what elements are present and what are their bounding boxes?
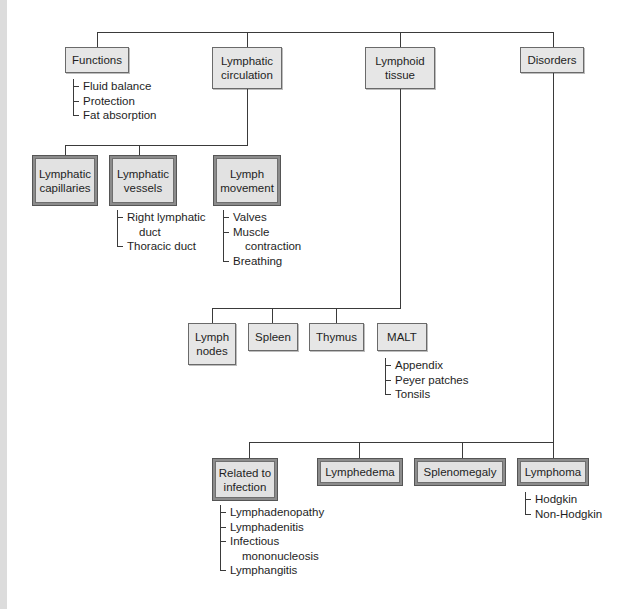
connector-to-vessels — [139, 145, 140, 155]
node-label-line1: Related to — [219, 466, 271, 480]
node-label: Splenomegaly — [424, 465, 497, 479]
node-label-line1: Lymph — [195, 330, 229, 344]
node-lymphatic-capillaries: Lymphatic capillaries — [32, 155, 98, 206]
node-functions: Functions — [65, 47, 129, 73]
infection-list: Lymphadenopathy Lymphadenitis Infectious… — [220, 505, 324, 578]
connector-to-lymphoid — [400, 32, 401, 47]
list-item: Hodgkin — [525, 492, 602, 507]
connector-top-horizontal — [97, 32, 554, 33]
node-label-line2: circulation — [221, 68, 273, 82]
node-lymph-nodes: Lymph nodes — [188, 323, 236, 365]
movement-list: Valves Muscle contraction Breathing — [223, 210, 301, 268]
node-label-line2: capillaries — [39, 181, 90, 195]
node-spleen: Spleen — [248, 323, 298, 351]
connector-to-lymphedema — [359, 442, 360, 458]
list-item: Non-Hodgkin — [525, 507, 602, 522]
node-label-line1: Lymphatic — [39, 167, 91, 181]
node-label: Lymphoma — [525, 465, 581, 479]
node-label-line1: Lymphatic — [117, 167, 169, 181]
node-malt: MALT — [377, 323, 427, 351]
node-label-line2: nodes — [196, 344, 227, 358]
list-item: Infectious — [220, 534, 324, 549]
connector-circulation-down — [247, 89, 248, 145]
connector-to-functions — [97, 32, 98, 47]
list-item: Appendix — [385, 358, 469, 373]
list-item: Tonsils — [385, 387, 469, 402]
vessels-list: Right lymphatic duct Thoracic duct — [117, 210, 206, 254]
node-disorders-label: Disorders — [527, 53, 576, 67]
list-item: Thoracic duct — [117, 239, 206, 254]
node-label-line1: Lymph — [230, 167, 264, 181]
connector-to-lymph-nodes — [212, 308, 213, 323]
functions-list: Fluid balance Protection Fat absorption — [73, 79, 157, 123]
connector-to-disorders — [553, 32, 554, 47]
node-lymphoid-tissue: Lymphoid tissue — [365, 47, 435, 89]
list-item: Breathing — [223, 254, 301, 269]
list-item: Muscle — [223, 225, 301, 240]
left-edge-strip — [0, 0, 7, 609]
connector-to-circulation — [247, 32, 248, 47]
connector-to-spleen — [272, 308, 273, 323]
malt-list: Appendix Peyer patches Tonsils — [385, 358, 469, 402]
node-label-line2: vessels — [124, 181, 162, 195]
list-item: Right lymphatic — [117, 210, 206, 225]
node-label-line2: infection — [224, 480, 267, 494]
connector-to-capillaries — [65, 145, 66, 155]
node-functions-label: Functions — [72, 53, 122, 67]
list-item: Lymphadenitis — [220, 520, 324, 535]
node-lymph-movement: Lymph movement — [213, 155, 281, 206]
lymphoma-list: Hodgkin Non-Hodgkin — [525, 492, 602, 521]
connector-to-infection — [249, 442, 250, 458]
list-item: Lymphadenopathy — [220, 505, 324, 520]
node-disorders: Disorders — [520, 47, 584, 73]
list-item: Fat absorption — [73, 108, 157, 123]
connector-lymphoid-down — [400, 89, 401, 308]
connector-circulation-horizontal — [65, 145, 248, 146]
connector-to-thymus — [336, 308, 337, 323]
node-lymphatic-vessels: Lymphatic vessels — [109, 155, 177, 206]
connector-to-splenomegaly — [462, 442, 463, 458]
connector-disorders-down — [553, 73, 554, 458]
node-label: Spleen — [255, 330, 291, 344]
list-item: Valves — [223, 210, 301, 225]
node-lymphoma: Lymphoma — [517, 458, 589, 486]
node-label-line2: tissue — [385, 68, 415, 82]
node-thymus: Thymus — [309, 323, 364, 351]
node-label: MALT — [387, 330, 417, 344]
connector-lymphoid-horizontal — [212, 308, 401, 309]
node-label-line1: Lymphoid — [375, 54, 424, 68]
node-related-to-infection: Related to infection — [212, 458, 278, 501]
node-label: Thymus — [316, 330, 357, 344]
node-lymphedema: Lymphedema — [317, 458, 403, 486]
connector-disorders-horizontal — [249, 442, 554, 443]
list-item-continuation: duct — [117, 225, 206, 240]
node-lymphatic-circulation: Lymphatic circulation — [212, 47, 282, 89]
list-item-continuation: contraction — [223, 239, 301, 254]
list-item: Fluid balance — [73, 79, 157, 94]
node-splenomegaly: Splenomegaly — [414, 458, 506, 486]
node-label-line1: Lymphatic — [221, 54, 273, 68]
list-item-continuation: mononucleosis — [220, 549, 324, 564]
list-item: Peyer patches — [385, 373, 469, 388]
node-label: Lymphedema — [325, 465, 394, 479]
list-item: Protection — [73, 94, 157, 109]
list-item: Lymphangitis — [220, 563, 324, 578]
node-label-line2: movement — [220, 181, 274, 195]
